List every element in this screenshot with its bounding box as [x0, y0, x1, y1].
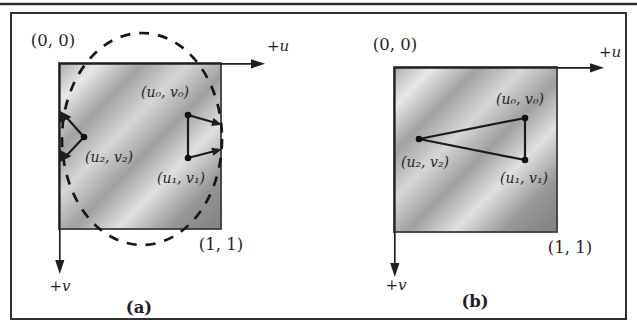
vertex1-label-b: (u₁, v₁) — [500, 170, 548, 186]
vertex0-label-b: (u₀, v₀) — [496, 91, 544, 107]
u-axis-label-b: +u — [599, 43, 621, 61]
origin-label-a: (0, 0) — [31, 31, 75, 50]
vertex-dot-u1v1-b — [522, 157, 529, 164]
vertex1-label-a: (u₁, v₁) — [157, 170, 205, 186]
panel-caption-b: (b) — [461, 292, 488, 311]
vertex-dot-u0v0-b — [522, 115, 529, 122]
origin-label-b: (0, 0) — [373, 35, 417, 54]
vertex0-label-a: (u₀, v₀) — [141, 84, 189, 100]
texture-space-figure: (0, 0) (1, 1) +u +v (u₀, v₀) (u₁, v₁) (u… — [0, 0, 637, 334]
v-axis-label-a: +v — [49, 277, 71, 295]
vertex-dot-u1v1-a — [185, 155, 192, 162]
texture-square-a — [59, 63, 221, 229]
vertex2-label-a: (u₂, v₂) — [85, 149, 133, 165]
vertex2-label-b: (u₂, v₂) — [401, 154, 449, 170]
vertex-dot-u0v0-a — [185, 112, 192, 119]
vertex-dot-u2v2-b — [416, 136, 423, 143]
v-axis-label-b: +v — [385, 276, 407, 294]
vertex-dot-u2v2-a — [81, 134, 88, 141]
u-axis-label-a: +u — [267, 37, 289, 55]
far-corner-label-a: (1, 1) — [199, 235, 243, 254]
far-corner-label-b: (1, 1) — [548, 238, 592, 257]
panel-caption-a: (a) — [126, 298, 152, 317]
